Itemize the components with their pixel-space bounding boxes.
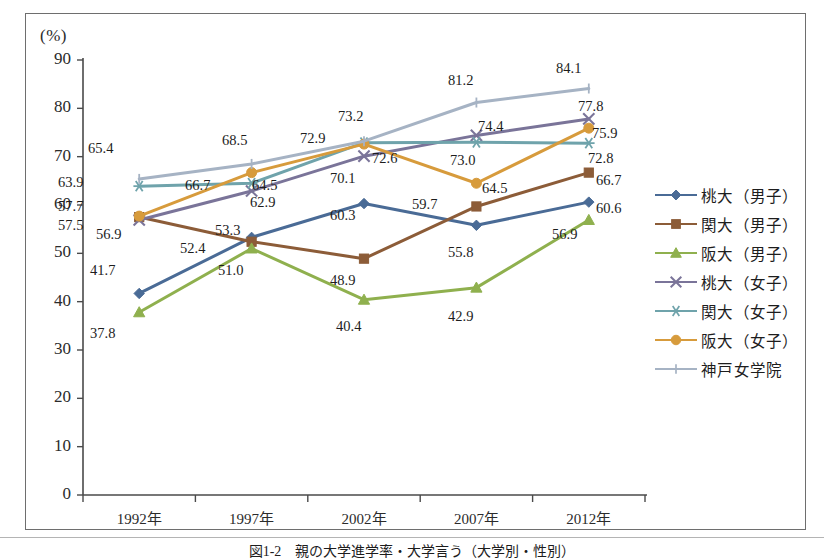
y-tick-50: 50 <box>31 242 71 262</box>
y-tick-70: 70 <box>31 146 71 166</box>
y-tick-20: 20 <box>31 387 71 407</box>
series-bar <box>139 84 589 184</box>
legend-marker-icon <box>655 246 697 260</box>
point-label: 77.8 <box>578 98 603 115</box>
legend-label: 阪大（女子） <box>701 329 799 351</box>
y-tick-30: 30 <box>31 339 71 359</box>
point-label: 66.7 <box>596 172 621 189</box>
legend-marker-icon <box>655 304 697 318</box>
point-label: 41.7 <box>90 262 115 279</box>
point-label: 68.5 <box>222 132 247 149</box>
legend-label: 関大（男子） <box>701 213 799 235</box>
point-label: 60.3 <box>330 207 355 224</box>
point-label: 65.4 <box>88 140 113 157</box>
legend-label: 神戸女学院 <box>701 358 783 380</box>
point-label: 56.9 <box>96 226 121 243</box>
x-tick-1997年: 1997年 <box>197 507 307 528</box>
point-label: 53.3 <box>215 222 240 239</box>
legend-marker-icon <box>655 333 697 347</box>
legend-marker-icon <box>655 362 697 376</box>
point-label: 75.9 <box>592 125 617 142</box>
legend-label: 阪大（男子） <box>701 242 799 264</box>
x-tick-2002年: 2002年 <box>309 507 419 528</box>
legend-item-1[interactable]: 関大（男子） <box>655 209 803 238</box>
y-tick-0: 0 <box>31 484 71 504</box>
point-label: 57.5 <box>58 217 83 234</box>
point-label: 81.2 <box>448 72 473 89</box>
point-label: 57.7 <box>58 198 83 215</box>
point-label: 40.4 <box>336 318 361 335</box>
point-label: 37.8 <box>90 325 115 342</box>
legend-item-2[interactable]: 阪大（男子） <box>655 238 803 267</box>
y-tick-40: 40 <box>31 291 71 311</box>
point-label: 42.9 <box>448 308 473 325</box>
chart-legend: 桃大（男子）関大（男子）阪大（男子）桃大（女子）関大（女子）阪大（女子）神戸女学… <box>655 178 803 385</box>
x-tick-2012年: 2012年 <box>534 507 644 528</box>
point-label: 72.9 <box>300 130 325 147</box>
legend-item-0[interactable]: 桃大（男子） <box>655 180 803 209</box>
legend-marker-icon <box>655 217 697 231</box>
point-label: 59.7 <box>412 196 437 213</box>
y-axis-unit-label: (%) <box>40 26 67 46</box>
point-label: 70.1 <box>330 170 355 187</box>
legend-label: 関大（女子） <box>701 300 799 322</box>
point-label: 56.9 <box>552 226 577 243</box>
point-label: 51.0 <box>218 262 243 279</box>
legend-label: 桃大（女子） <box>701 271 799 293</box>
point-label: 62.9 <box>250 194 275 211</box>
point-label: 74.4 <box>478 118 503 135</box>
point-label: 84.1 <box>556 60 581 77</box>
point-label: 73.2 <box>338 108 363 125</box>
point-label: 52.4 <box>180 240 205 257</box>
figure-caption: 図1-2 親の大学進学率・大学言う（大学別・性別） <box>0 540 824 559</box>
legend-item-6[interactable]: 神戸女学院 <box>655 354 803 383</box>
page-divider-line <box>0 537 824 538</box>
legend-label: 桃大（男子） <box>701 184 799 206</box>
legend-marker-icon <box>655 188 697 202</box>
y-tick-10: 10 <box>31 436 71 456</box>
legend-item-4[interactable]: 関大（女子） <box>655 296 803 325</box>
y-tick-80: 80 <box>31 97 71 117</box>
point-label: 64.5 <box>252 177 277 194</box>
point-label: 55.8 <box>448 244 473 261</box>
point-label: 66.7 <box>185 177 210 194</box>
point-label: 72.8 <box>588 150 613 167</box>
legend-marker-icon <box>655 275 697 289</box>
point-label: 72.6 <box>372 150 397 167</box>
point-label: 48.9 <box>330 272 355 289</box>
point-label: 73.0 <box>450 152 475 169</box>
x-tick-2007年: 2007年 <box>421 507 531 528</box>
y-tick-90: 90 <box>31 49 71 69</box>
legend-item-3[interactable]: 桃大（女子） <box>655 267 803 296</box>
x-tick-1992年: 1992年 <box>84 507 194 528</box>
point-label: 64.5 <box>482 180 507 197</box>
point-label: 60.6 <box>596 200 621 217</box>
legend-item-5[interactable]: 阪大（女子） <box>655 325 803 354</box>
point-label: 63.9 <box>58 174 83 191</box>
